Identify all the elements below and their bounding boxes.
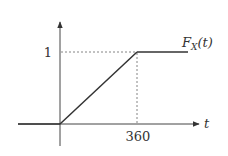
cdf-segment-ramp <box>60 52 137 124</box>
cdf-diagram: 1 360 t FX(t) <box>0 0 228 156</box>
x-tick-label: 360 <box>126 129 151 144</box>
x-axis-label: t <box>204 116 210 131</box>
function-label-argument: (t) <box>197 35 212 50</box>
function-label: FX(t) <box>181 35 213 52</box>
y-tick-label: 1 <box>44 45 52 60</box>
